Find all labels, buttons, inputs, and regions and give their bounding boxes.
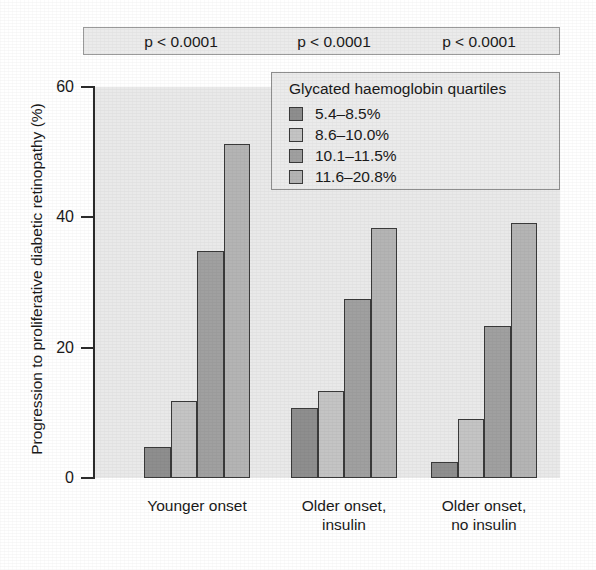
legend-title: Glycated haemoglobin quartiles — [289, 80, 506, 98]
legend-label-3: 10.1–11.5% — [315, 146, 397, 166]
legend: Glycated haemoglobin quartiles 5.4–8.5%8… — [271, 72, 560, 190]
y-axis-tick-60 — [81, 86, 95, 88]
legend-label-4: 11.6–20.8% — [315, 167, 397, 187]
y-axis-line — [93, 87, 95, 479]
bar-group-1-series-4 — [224, 144, 251, 478]
x-axis-group-label-2: Older onset, insulin — [264, 496, 424, 534]
legend-label-1: 5.4–8.5% — [315, 104, 381, 124]
bar-group-2-series-4 — [371, 228, 398, 478]
pvalue-banner: p < 0.0001 p < 0.0001 p < 0.0001 — [83, 27, 560, 55]
legend-swatch-icon-1 — [289, 107, 303, 121]
pvalue-label-younger-onset: p < 0.0001 — [106, 28, 256, 56]
legend-swatch-icon-3 — [289, 149, 303, 163]
bar-group-2-series-3 — [344, 299, 371, 478]
y-axis-tick-0 — [81, 477, 95, 479]
bar-group-1-series-1 — [144, 447, 171, 478]
bar-group-1-series-3 — [197, 251, 224, 478]
x-axis-group-label-1: Younger onset — [117, 496, 277, 515]
y-axis-tick-40 — [81, 216, 95, 218]
bar-group-3-series-3 — [484, 326, 511, 478]
bar-group-3-series-1 — [431, 462, 458, 478]
y-axis-tick-20 — [81, 347, 95, 349]
bar-group-3-series-4 — [511, 223, 538, 478]
bar-group-2-series-1 — [291, 408, 318, 478]
bar-group-3-series-2 — [458, 419, 485, 478]
x-axis-group-label-3: Older onset, no insulin — [404, 496, 564, 534]
legend-label-2: 8.6–10.0% — [315, 125, 389, 145]
chart-figure: p < 0.0001 p < 0.0001 p < 0.0001 6040200… — [0, 0, 596, 570]
legend-swatch-icon-4 — [289, 170, 303, 184]
pvalue-label-older-onset-insulin: p < 0.0001 — [259, 28, 409, 56]
bar-group-2-series-2 — [318, 391, 345, 478]
legend-swatch-icon-2 — [289, 128, 303, 142]
pvalue-label-older-onset-no-insulin: p < 0.0001 — [404, 28, 554, 56]
bar-group-1-series-2 — [171, 401, 198, 478]
y-axis-title: Progression to proliferative diabetic re… — [28, 79, 46, 479]
